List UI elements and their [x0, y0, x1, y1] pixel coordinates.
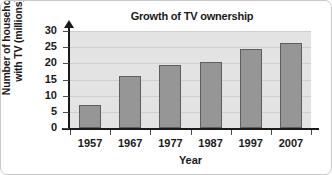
chart-title: Growth of TV ownership	[67, 10, 317, 22]
x-axis-tick	[150, 130, 151, 135]
y-axis-tick-label: 15	[33, 74, 57, 85]
y-axis-tick-label: 20	[33, 57, 57, 68]
x-axis-tick-label: 1967	[108, 137, 152, 149]
y-axis-tick	[63, 128, 69, 129]
bar	[200, 62, 222, 128]
x-axis-tick-label: 2007	[269, 137, 313, 149]
y-axis-tick-label: 30	[33, 25, 57, 36]
bar	[79, 105, 101, 128]
x-axis-tick	[191, 130, 192, 135]
y-axis-tick	[63, 31, 69, 32]
y-axis-arrow-icon	[64, 20, 74, 28]
y-axis-tick-label: 10	[33, 90, 57, 101]
gridline	[70, 47, 311, 48]
bar	[119, 76, 141, 128]
y-axis-label-container: Number of households with TV (millions)	[0, 0, 29, 96]
y-axis-tick	[63, 47, 69, 48]
y-axis-tick-label: 25	[33, 41, 57, 52]
x-axis-tick	[271, 130, 272, 135]
gridline	[70, 80, 311, 81]
gridline	[70, 63, 311, 64]
y-axis-label: Number of households with TV (millions)	[0, 0, 24, 95]
bar	[280, 43, 302, 128]
x-axis-tick	[231, 130, 232, 135]
x-axis-tick-label: 1977	[148, 137, 192, 149]
x-axis-tick	[311, 130, 312, 135]
bar	[159, 65, 181, 128]
y-axis-line	[68, 26, 70, 129]
y-axis-tick-label: 0	[33, 122, 57, 133]
gridline	[70, 96, 311, 97]
y-axis-tick	[63, 80, 69, 81]
y-axis-tick	[63, 96, 69, 97]
x-axis-label: Year	[70, 154, 311, 166]
x-axis-tick-label: 1997	[229, 137, 273, 149]
gridline	[70, 31, 311, 32]
bar	[240, 49, 262, 128]
y-axis-tick	[63, 63, 69, 64]
chart-figure: Growth of TV ownership Number of househo…	[0, 0, 332, 175]
x-axis-tick-label: 1987	[189, 137, 233, 149]
x-axis-tick	[70, 130, 71, 135]
y-axis-tick	[63, 112, 69, 113]
x-axis-tick-label: 1957	[68, 137, 112, 149]
x-axis-tick	[110, 130, 111, 135]
plot-area	[70, 31, 311, 128]
gridline	[70, 112, 311, 113]
y-axis-tick-label: 5	[33, 106, 57, 117]
